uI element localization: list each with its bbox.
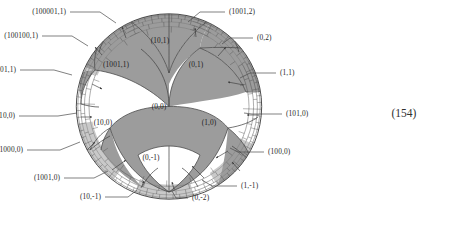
leader-line [70,12,116,23]
leader-label-1000-0: (1000,0) [0,146,23,153]
leader-label-10-neg1: (10,-1) [80,193,101,200]
leader-line [27,142,80,150]
leader-label-100-0: (100,0) [268,148,290,155]
leader-label-100100-1: (100100,1) [4,32,38,39]
tile-label-1-0: (1,0) [202,119,217,126]
leader-label-1-1: (1,1) [280,69,295,76]
hyperbolic-tiling-figure: (10,1) (1001,1) (0,1) (0,0) (10,0) (1,0)… [0,0,454,226]
equation-number: (154) [392,107,417,119]
tile-label-0-neg1: (0,-1) [142,154,159,161]
tile-label-1001-1: (1001,1) [103,61,129,68]
leader-line [20,70,72,75]
tile-label-0-1: (0,1) [189,61,204,68]
leader-label-1-neg1: (1,-1) [241,182,258,189]
leader-label-101-0: (101,0) [286,110,308,117]
tile-label-10-1: (10,1) [151,37,169,44]
leader-label-1001-2: (1001,2) [229,8,255,15]
tile-label-0-0: (0,0) [152,103,167,110]
leader-line [42,36,88,46]
tile-label-10-0: (10,0) [94,119,112,126]
leader-label-1010-0: (1010,0) [0,112,15,119]
leader-line [64,171,108,178]
leader-line [19,113,77,116]
leader-label-100101-1: (100101,1) [0,66,16,73]
leader-label-0-2: (0,2) [257,34,272,41]
leader-label-1001-0: (1001,0) [34,174,60,181]
poincare-disk-svg [0,0,454,226]
leader-label-0-neg2: (0,-2) [192,194,209,201]
leader-label-100001-1: (100001,1) [32,8,66,15]
